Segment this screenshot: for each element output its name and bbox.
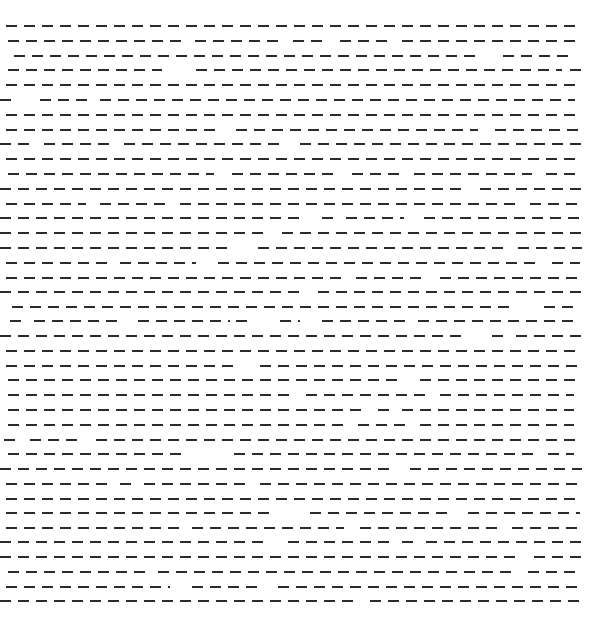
dash-segment [410, 468, 582, 470]
dash-segment [6, 84, 580, 86]
dash-segment [0, 232, 270, 234]
dash-segment [8, 571, 146, 573]
dash-segment [340, 40, 388, 42]
dash-segment [424, 217, 582, 219]
dash-segment [0, 468, 396, 470]
dash-segment [546, 173, 578, 175]
dash-segment [356, 277, 422, 279]
dash-segment [322, 320, 406, 322]
dash-pattern-canvas [0, 0, 607, 623]
dash-segment [282, 232, 582, 234]
dash-segment [6, 498, 580, 500]
dash-segment [6, 586, 170, 588]
dash-segment [426, 541, 582, 543]
dash-segment [100, 203, 168, 205]
dash-segment [495, 129, 582, 131]
dash-segment [236, 129, 478, 131]
dash-segment [310, 512, 454, 514]
dash-segment [158, 571, 516, 573]
dash-segment [278, 586, 580, 588]
dash-segment [0, 335, 466, 337]
dash-segment [544, 306, 574, 308]
dash-segment [0, 541, 270, 543]
dash-segment [218, 262, 538, 264]
dash-segment [516, 335, 582, 337]
dash-segment [236, 320, 248, 322]
dash-segment [370, 600, 582, 602]
dash-segment [468, 512, 580, 514]
dash-segment [34, 320, 120, 322]
dash-segment [280, 320, 300, 322]
dash-segment [40, 99, 88, 101]
dash-segment [12, 306, 514, 308]
dash-segment [0, 556, 516, 558]
dash-segment [180, 203, 516, 205]
dash-segment [306, 394, 426, 396]
dash-segment [8, 453, 182, 455]
dash-segment [6, 25, 580, 27]
dash-segment [548, 453, 574, 455]
dash-segment [6, 262, 108, 264]
dash-segment [0, 291, 304, 293]
dash-segment [232, 173, 334, 175]
dash-segment [0, 247, 232, 249]
dash-segment [528, 571, 578, 573]
dash-segment [6, 350, 580, 352]
dash-segment [480, 188, 582, 190]
dash-segment [352, 173, 400, 175]
dash-segment [420, 424, 574, 426]
dash-segment [8, 40, 182, 42]
dash-segment [6, 277, 344, 279]
dash-segment [192, 586, 260, 588]
dash-segment [6, 114, 580, 116]
dash-segment [6, 512, 270, 514]
dash-segment [300, 143, 582, 145]
dash-segment [234, 453, 536, 455]
dash-segment [570, 69, 581, 71]
dash-segment [260, 365, 580, 367]
dash-segment [293, 40, 322, 42]
dash-segment [358, 424, 408, 426]
dash-segment [0, 217, 302, 219]
dash-segment [420, 379, 576, 381]
dash-segment [418, 320, 574, 322]
dash-segment [288, 541, 390, 543]
dash-segment [96, 439, 582, 441]
dash-segment [552, 262, 580, 264]
dash-segment [318, 291, 582, 293]
dash-segment [414, 173, 532, 175]
dash-segment [402, 541, 416, 543]
dash-segment [4, 439, 20, 441]
dash-segment [44, 143, 112, 145]
dash-segment [402, 40, 578, 42]
dash-segment [14, 55, 478, 57]
dash-segment [440, 277, 582, 279]
dash-segment [120, 262, 196, 264]
dash-segment [6, 365, 236, 367]
dash-segment [260, 483, 580, 485]
dash-segment [6, 483, 108, 485]
dash-segment [492, 335, 504, 337]
dash-segment [258, 247, 504, 249]
dash-segment [124, 143, 282, 145]
dash-segment [0, 188, 466, 190]
dash-segment [360, 527, 500, 529]
dash-segment [0, 143, 32, 145]
dash-segment [8, 173, 214, 175]
dash-segment [100, 99, 575, 101]
dash-segment [6, 129, 218, 131]
dash-segment [512, 527, 580, 529]
dash-segment [440, 394, 574, 396]
dash-segment [518, 247, 582, 249]
dash-segment [120, 483, 132, 485]
dash-segment [6, 203, 86, 205]
dash-segment [402, 409, 574, 411]
dash-segment [144, 483, 248, 485]
dash-segment [8, 409, 364, 411]
dash-segment [30, 439, 80, 441]
dash-segment [530, 203, 580, 205]
dash-segment [196, 69, 562, 71]
dash-segment [378, 409, 392, 411]
dash-segment [322, 217, 333, 219]
dash-segment [8, 394, 292, 396]
